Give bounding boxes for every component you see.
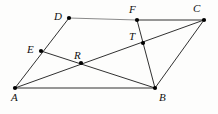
segment-ad xyxy=(15,18,69,88)
vertex-label-c: C xyxy=(193,3,200,14)
vertex-label-r: R xyxy=(74,50,81,61)
vertex-label-e: E xyxy=(27,44,34,55)
vertex-label-f: F xyxy=(129,4,136,15)
vertex-point-c xyxy=(202,18,206,22)
vertex-point-t xyxy=(141,41,145,45)
segment-ac xyxy=(15,20,204,88)
vertex-point-a xyxy=(13,86,17,90)
segment-fb xyxy=(137,20,155,88)
vertex-label-b: B xyxy=(159,92,166,103)
geometry-figure: ABCDEFRT xyxy=(0,0,218,114)
vertex-point-b xyxy=(153,86,157,90)
vertex-point-e xyxy=(39,49,43,53)
segments-group xyxy=(15,18,204,88)
geometry-canvas xyxy=(0,0,218,114)
vertex-point-d xyxy=(67,16,71,20)
vertex-label-t: T xyxy=(129,31,135,42)
segment-df xyxy=(69,18,137,20)
segment-eb xyxy=(41,51,155,88)
vertex-point-r xyxy=(79,61,83,65)
vertex-point-f xyxy=(135,18,139,22)
vertex-label-d: D xyxy=(54,11,62,22)
segment-bc xyxy=(155,20,204,88)
vertex-label-a: A xyxy=(11,92,18,103)
